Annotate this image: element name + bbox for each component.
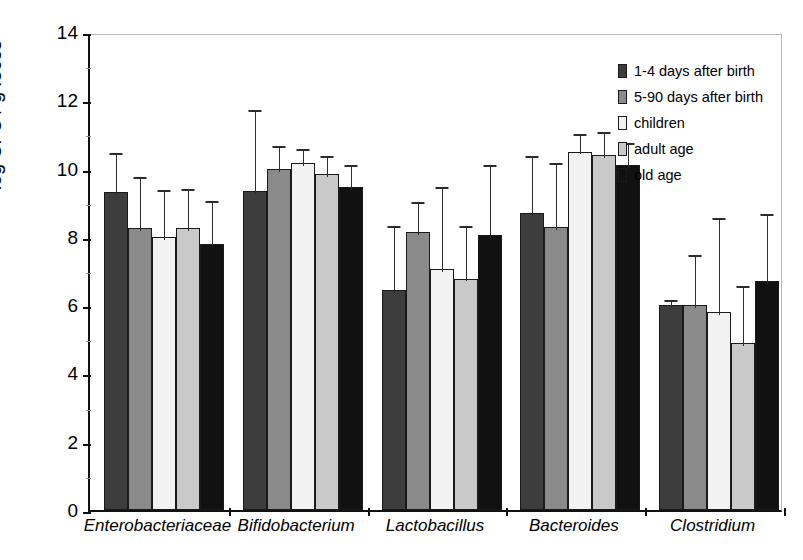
error-bar (767, 214, 768, 284)
bar (707, 312, 731, 510)
bar (315, 174, 339, 510)
tick-mark (83, 171, 91, 173)
y-axis-tick-label: 0 (67, 501, 78, 520)
tick-mark (86, 410, 91, 411)
error-bar-cap (158, 190, 171, 192)
error-bar (490, 165, 491, 238)
legend-swatch-icon (618, 64, 627, 78)
error-bar-cap (206, 201, 219, 203)
error-bar-cap (387, 226, 400, 228)
bar (176, 228, 200, 510)
error-bar-cap (344, 165, 357, 167)
bar (339, 187, 363, 510)
error-bar-cap (483, 165, 496, 167)
error-bar (140, 177, 141, 232)
error-bar (743, 286, 744, 346)
bar (731, 343, 755, 510)
bar (659, 305, 683, 510)
legend-item-label: 5-90 days after birth (634, 90, 763, 105)
error-bar-cap (110, 153, 123, 155)
legend-swatch-icon (618, 168, 627, 182)
y-axis-tick-label: 6 (67, 296, 78, 315)
tick-mark (83, 239, 91, 241)
error-bar-cap (526, 156, 539, 158)
bar (755, 281, 779, 510)
bar (454, 279, 478, 510)
legend-item-label: old age (634, 168, 682, 183)
x-axis-tick (506, 508, 508, 516)
error-bar (580, 134, 581, 154)
bar (406, 232, 430, 510)
bar (152, 237, 176, 510)
error-bar-cap (272, 146, 285, 148)
bar (267, 169, 291, 510)
error-bar-cap (320, 156, 333, 158)
tick-mark (83, 512, 91, 514)
x-axis-tick (645, 508, 647, 516)
error-bar (532, 156, 533, 216)
error-bar (279, 146, 280, 172)
y-axis-tick-label: 10 (57, 160, 78, 179)
bar (382, 290, 406, 510)
legend-item-label: 1-4 days after birth (634, 64, 755, 79)
bar (520, 213, 544, 510)
error-bar (212, 201, 213, 247)
legend-item: children (618, 110, 794, 136)
bar (104, 192, 128, 510)
bar (478, 235, 502, 510)
error-bar (695, 255, 696, 308)
tick-mark (86, 478, 91, 479)
x-axis-category-label: Enterobacteriaceae (84, 516, 231, 536)
legend-item: adult age (618, 136, 794, 162)
legend-item: 1-4 days after birth (618, 58, 794, 84)
legend-item: old age (618, 162, 794, 188)
error-bar-cap (713, 218, 726, 220)
error-bar (327, 156, 328, 176)
bar (568, 152, 592, 511)
y-axis-tick-label: 14 (57, 23, 78, 42)
x-axis-tick (784, 508, 786, 516)
error-bar (164, 190, 165, 240)
legend-swatch-icon (618, 142, 627, 156)
x-axis-category-label: Clostridium (670, 516, 755, 536)
legend-item: 5-90 days after birth (618, 84, 794, 110)
bar (544, 227, 568, 510)
error-bar (466, 226, 467, 281)
error-bar-cap (182, 189, 195, 191)
error-bar-cap (550, 163, 563, 165)
error-bar-cap (761, 214, 774, 216)
tick-mark (86, 341, 91, 342)
y-axis-tick-label: 12 (57, 91, 78, 110)
error-bar (255, 110, 256, 194)
bar (291, 163, 315, 510)
tick-mark (86, 68, 91, 69)
x-axis-tick (368, 508, 370, 516)
error-bar (418, 202, 419, 234)
bar (430, 269, 454, 510)
x-axis-category-label: Bacteroides (529, 516, 619, 536)
bar (683, 305, 707, 510)
error-bar (351, 165, 352, 191)
error-bar-cap (134, 177, 147, 179)
legend: 1-4 days after birth5-90 days after birt… (618, 58, 794, 188)
error-bar (442, 187, 443, 272)
error-bar-cap (598, 132, 611, 134)
legend-item-label: children (634, 116, 685, 131)
bar (200, 244, 224, 510)
bar (616, 165, 640, 510)
error-bar (719, 218, 720, 315)
y-axis-title: log CFU / g feces (0, 0, 6, 190)
error-bar-cap (296, 149, 309, 151)
error-bar (303, 149, 304, 166)
y-axis-tick-label: 4 (67, 364, 78, 383)
error-bar-cap (459, 226, 472, 228)
x-axis-category-label: Lactobacillus (386, 516, 484, 536)
tick-mark (83, 444, 91, 446)
tick-mark (83, 375, 91, 377)
error-bar-cap (248, 110, 261, 112)
tick-mark (83, 307, 91, 309)
y-axis-tick-label: 8 (67, 228, 78, 247)
legend-item-label: adult age (634, 142, 694, 157)
tick-mark (86, 205, 91, 206)
bar (243, 191, 267, 510)
